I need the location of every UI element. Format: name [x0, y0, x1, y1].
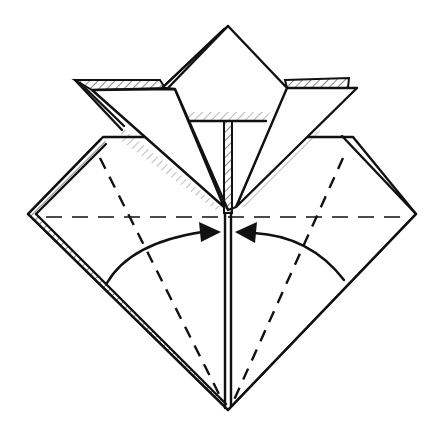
- origami-diagram: [0, 0, 431, 429]
